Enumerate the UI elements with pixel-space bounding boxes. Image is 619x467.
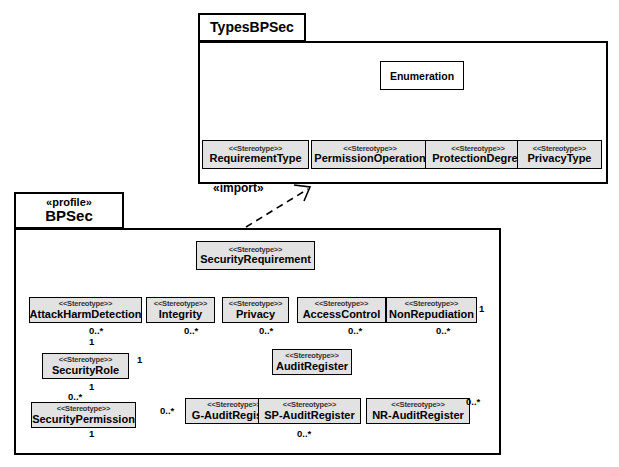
package-title-typesbpsec: TypesBPSec: [210, 20, 294, 35]
class-name-attackharmdetection: AttackHarmDetection: [30, 309, 142, 320]
package-title-bpsec: BPSec: [45, 208, 93, 224]
multiplicity-securitypermission-bottom: 1: [89, 428, 94, 439]
class-name-accesscontrol: AccessControl: [303, 309, 381, 320]
class-name-protectiondegree: ProtectionDegree: [432, 153, 524, 164]
class-box-accesscontrol[interactable]: <<Stereotype>> AccessControl: [297, 297, 386, 323]
multiplicity-securityrole-top: 1: [89, 336, 94, 347]
class-box-integrity[interactable]: <<Stereotype>> Integrity: [146, 297, 215, 323]
stereotype-label: <<Stereotype>>: [57, 405, 110, 413]
stereotype-label: <<Stereotype>>: [451, 145, 504, 153]
class-name-nr-auditregister: NR-AuditRegister: [372, 410, 464, 421]
class-name-requirementtype: RequirementType: [209, 153, 301, 164]
stereotype-label: <<Stereotype>>: [59, 356, 112, 364]
class-box-securityrequirement[interactable]: <<Stereotype>> SecurityRequirement: [196, 241, 315, 270]
class-box-securitypermission[interactable]: <<Stereotype>> SecurityPermission: [31, 402, 136, 428]
class-box-protectiondegree[interactable]: <<Stereotype>> ProtectionDegree: [425, 140, 531, 169]
multiplicity-accesscontrol: 0..*: [348, 325, 362, 336]
stereotype-label: <<Stereotype>>: [59, 300, 112, 308]
stereotype-label: <<Stereotype>>: [533, 145, 586, 153]
stereotype-label: <<Stereotype>>: [285, 352, 338, 360]
stereotype-label: <<Stereotype>>: [405, 300, 458, 308]
import-relation-label: «import»: [213, 181, 264, 195]
class-name-privacytype: PrivacyType: [527, 153, 591, 164]
stereotype-label: <<Stereotype>>: [391, 401, 444, 409]
stereotype-label: <<Stereotype>>: [207, 401, 260, 409]
multiplicity-securityrole-right: 1: [137, 354, 142, 365]
stereotype-label: <<Stereotype>>: [229, 300, 282, 308]
class-name-permissionoperation: PermissionOperation: [314, 153, 425, 164]
multiplicity-nonrepudiation-many: 0..*: [436, 325, 450, 336]
class-box-securityrole[interactable]: <<Stereotype>> SecurityRole: [42, 353, 129, 379]
class-name-enumeration: Enumeration: [390, 71, 454, 82]
multiplicity-integrity: 0..*: [184, 325, 198, 336]
multiplicity-sp-auditregister: 0..*: [297, 428, 311, 439]
stereotype-label: <<Stereotype>>: [154, 300, 207, 308]
class-name-securityrequirement: SecurityRequirement: [200, 254, 311, 265]
class-box-auditregister[interactable]: <<Stereotype>> AuditRegister: [272, 349, 352, 375]
multiplicity-nr-auditregister: 0..*: [466, 396, 480, 407]
stereotype-label: <<Stereotype>>: [343, 145, 396, 153]
stereotype-label: <<Stereotype>>: [283, 401, 336, 409]
class-box-permissionoperation[interactable]: <<Stereotype>> PermissionOperation: [311, 140, 429, 169]
uml-diagram-canvas: TypesBPSec Enumeration <<Stereotype>> Re…: [0, 0, 619, 467]
class-box-privacy[interactable]: <<Stereotype>> Privacy: [222, 297, 289, 323]
package-tab-bpsec[interactable]: «profile» BPSec: [14, 192, 124, 229]
class-name-integrity: Integrity: [159, 309, 202, 320]
class-name-securityrole: SecurityRole: [52, 365, 119, 376]
multiplicity-g-auditregister: 0..*: [160, 405, 174, 416]
class-name-auditregister: AuditRegister: [276, 361, 348, 372]
class-name-nonrepudiation: NonRepudiation: [389, 309, 474, 320]
multiplicity-attackharmdetection: 0..*: [89, 325, 103, 336]
stereotype-label: <<Stereotype>>: [315, 300, 368, 308]
multiplicity-securitypermission-many: 0..*: [68, 391, 82, 402]
class-box-privacytype[interactable]: <<Stereotype>> PrivacyType: [517, 140, 602, 169]
package-tab-typesbpsec[interactable]: TypesBPSec: [198, 13, 306, 42]
class-name-securitypermission: SecurityPermission: [32, 414, 135, 425]
stereotype-label: <<Stereotype>>: [229, 246, 282, 254]
multiplicity-privacy: 0..*: [259, 325, 273, 336]
class-box-nonrepudiation[interactable]: <<Stereotype>> NonRepudiation: [386, 297, 477, 323]
class-box-sp-auditregister[interactable]: <<Stereotype>> SP-AuditRegister: [258, 398, 361, 424]
class-box-requirementtype[interactable]: <<Stereotype>> RequirementType: [202, 140, 309, 169]
class-box-nr-auditregister[interactable]: <<Stereotype>> NR-AuditRegister: [366, 398, 470, 424]
stereotype-label: <<Stereotype>>: [229, 145, 282, 153]
multiplicity-securityrole-bottom: 1: [89, 381, 94, 392]
multiplicity-nonrepudiation-one: 1: [479, 303, 484, 314]
class-box-attackharmdetection[interactable]: <<Stereotype>> AttackHarmDetection: [29, 297, 142, 323]
class-name-sp-auditregister: SP-AuditRegister: [264, 410, 354, 421]
class-name-privacy: Privacy: [236, 309, 275, 320]
class-box-enumeration[interactable]: Enumeration: [380, 61, 464, 90]
